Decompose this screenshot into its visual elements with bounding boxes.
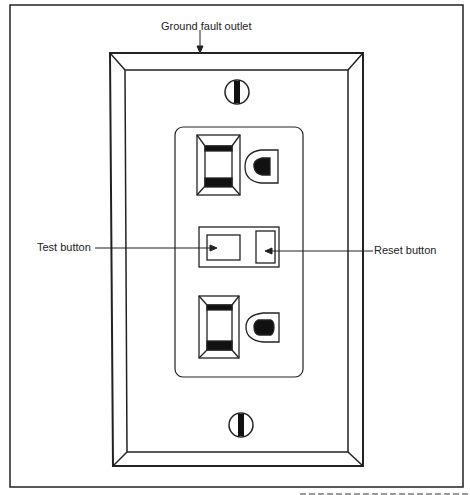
reset-button-label: Reset button xyxy=(374,244,436,256)
top-screw-icon xyxy=(225,80,249,104)
test-button-label: Test button xyxy=(37,241,91,253)
top-outlet xyxy=(197,135,278,195)
callout-arrows xyxy=(95,30,373,254)
ground-fault-outlet-label: Ground fault outlet xyxy=(161,20,252,32)
bottom-screw-icon xyxy=(229,413,253,437)
bottom-outlet xyxy=(199,296,279,358)
reset-button[interactable] xyxy=(256,231,275,263)
